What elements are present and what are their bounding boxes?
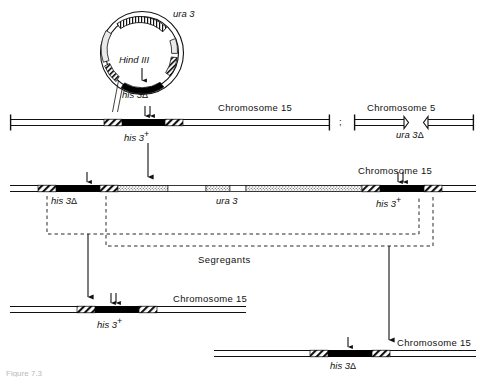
row2-plasmid-gap-b: [230, 186, 246, 192]
chromosome5-centromere-left: [404, 117, 409, 129]
plasmid-ura3-arc: [117, 17, 167, 32]
row2-plasmid-dna-c: [246, 186, 362, 192]
row1-chromosome15-label: Chromosome 15: [218, 103, 292, 113]
row3-arm-hatch-left: [77, 306, 95, 313]
plasmid-his3-delta-label: his 3Δ: [122, 90, 148, 100]
chromosome-separator: ;: [339, 117, 342, 127]
row2-right-arm-hatch: [424, 185, 442, 192]
chromosome5-centromere-right: [424, 117, 429, 129]
row2-his3-plus-label: his 3+: [376, 196, 401, 209]
figure-panel: ura 3 Hind III his 3Δ Chromosome 15 his …: [0, 0, 486, 377]
plasmid-arc-left-lower: [105, 63, 120, 81]
row4-his3-delta-segment: [328, 350, 372, 357]
plasmid-arc-left-upper: [101, 31, 111, 63]
row2-ura3-label: ura 3: [216, 196, 238, 206]
row2-chromosome15-label: Chromosome 15: [358, 166, 432, 176]
row3-his3-plus-segment: [95, 306, 139, 313]
row2-his3-plus-segment: [380, 185, 424, 192]
plasmid-ura3-label: ura 3: [173, 9, 195, 19]
row4-his3-delta-label: his 3Δ: [330, 361, 356, 371]
row3-chromosome15-label: Chromosome 15: [173, 294, 247, 304]
row2-plasmid-dna-a: [118, 186, 168, 192]
plasmid-arc-right-upper: [170, 39, 178, 54]
row3-arm-hatch-right: [139, 306, 157, 313]
row4-arm-hatch-right: [372, 350, 390, 357]
plasmid-arc-right-lower: [166, 57, 178, 76]
row4-chromosome15-label: Chromosome 15: [397, 338, 471, 348]
row1-homology-arm-left: [104, 119, 122, 126]
row2-left-arm-hatch: [38, 185, 56, 192]
row2-mid-arm-hatch-right: [362, 185, 380, 192]
row2-his3-delta-label: his 3Δ: [51, 196, 77, 206]
row1-his3-plus-label: his 3+: [124, 130, 149, 143]
row2-mid-arm-hatch-left: [100, 185, 118, 192]
figure-caption: Figure 7.3: [6, 370, 42, 377]
row1-homology-arm-right: [165, 119, 183, 126]
row2-plasmid-gap-a: [168, 186, 206, 192]
row4-arm-hatch-left: [310, 350, 328, 357]
hind3-label: Hind III: [119, 55, 149, 65]
row1-chromosome5-label: Chromosome 5: [367, 103, 436, 113]
row1-ura3-delta-label: ura 3Δ: [396, 130, 424, 140]
diagram-canvas: [0, 0, 486, 377]
row2-plasmid-dna-b: [206, 186, 230, 192]
segregants-label: Segregants: [198, 255, 251, 265]
row1-his3-plus-segment: [122, 119, 165, 126]
row3-his3-plus-label: his 3+: [97, 317, 122, 330]
row2-his3-delta-segment: [56, 185, 100, 192]
